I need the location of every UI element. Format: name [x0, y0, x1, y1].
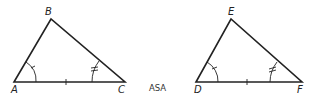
angle-f-arc	[270, 62, 277, 82]
vertex-label-e: E	[228, 6, 235, 17]
angle-d-arc	[207, 62, 218, 82]
asa-congruence-diagram: B A C ASA E D F	[0, 0, 314, 99]
vertex-label-d: D	[194, 84, 202, 95]
caption-asa: ASA	[149, 83, 166, 93]
vertex-label-b: B	[45, 6, 52, 17]
angle-c-arc	[92, 61, 99, 82]
vertex-label-f: F	[297, 84, 303, 95]
vertex-label-c: C	[118, 84, 125, 95]
triangle-def: E D F	[194, 6, 303, 95]
angle-a-arc	[26, 62, 36, 82]
vertex-label-a: A	[10, 84, 18, 95]
triangle-abc: B A C	[10, 6, 125, 95]
